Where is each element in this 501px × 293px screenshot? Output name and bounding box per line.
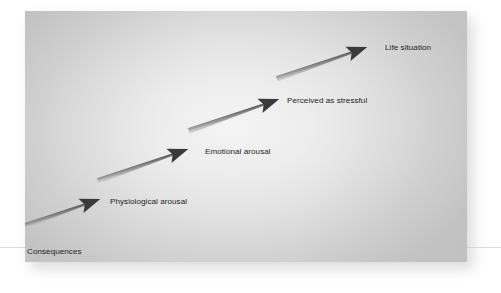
step-label-consequences: Consequences bbox=[27, 247, 82, 257]
step-label-physiological-arousal: Physiological arousal bbox=[110, 197, 187, 207]
step-label-life-situation: Life situation bbox=[385, 43, 431, 53]
arrow-physiological-to-consequences bbox=[25, 192, 103, 238]
figure-canvas: Life situation Perceived as stressful Em… bbox=[0, 0, 501, 293]
arrow-emotional-to-physiological bbox=[95, 142, 191, 188]
step-label-perceived-stressful: Perceived as stressful bbox=[287, 96, 367, 106]
arrow-perceived-to-emotional bbox=[186, 92, 282, 138]
step-label-emotional-arousal: Emotional arousal bbox=[205, 147, 271, 157]
arrow-life-to-perceived bbox=[274, 40, 370, 86]
diagram-panel: Life situation Perceived as stressful Em… bbox=[25, 11, 467, 262]
